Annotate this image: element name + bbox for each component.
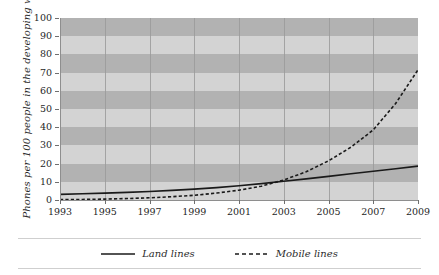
x-tick-label: 1993: [40, 206, 80, 217]
y-axis-line: [60, 18, 61, 201]
legend-label: Land lines: [142, 248, 195, 259]
y-tick-mark: [55, 164, 59, 165]
series-line-mobile-lines: [60, 70, 418, 200]
plot-area: [60, 18, 418, 200]
y-tick-mark: [55, 145, 59, 146]
y-tick-mark: [55, 109, 59, 110]
x-tick-label: 2007: [353, 206, 393, 217]
y-tick-mark: [55, 18, 59, 19]
y-tick-label: 40: [26, 122, 52, 132]
y-tick-label: 0: [26, 195, 52, 205]
y-tick-mark: [55, 36, 59, 37]
y-tick-label: 70: [26, 68, 52, 78]
y-tick-label: 10: [26, 177, 52, 187]
legend-label: Mobile lines: [276, 248, 338, 259]
x-tick-label: 2003: [264, 206, 304, 217]
y-tick-mark: [55, 73, 59, 74]
y-tick-mark: [55, 200, 59, 201]
y-tick-mark: [55, 91, 59, 92]
legend-separator-bottom: [18, 268, 421, 269]
x-tick-mark: [284, 200, 285, 204]
x-tick-mark: [239, 200, 240, 204]
y-tick-label: 100: [26, 13, 52, 23]
x-tick-label: 2005: [309, 206, 349, 217]
y-tick-label: 30: [26, 140, 52, 150]
legend-item[interactable]: Mobile lines: [235, 248, 338, 259]
x-tick-mark: [418, 200, 419, 204]
x-tick-mark: [329, 200, 330, 204]
y-tick-label: 60: [26, 86, 52, 96]
legend-swatch-dashed: [235, 250, 269, 258]
x-tick-mark: [60, 200, 61, 204]
x-tick-label: 1995: [85, 206, 125, 217]
x-tick-mark: [105, 200, 106, 204]
y-tick-mark: [55, 182, 59, 183]
y-tick-label: 20: [26, 159, 52, 169]
y-tick-mark: [55, 54, 59, 55]
x-tick-mark: [373, 200, 374, 204]
chart-legend: Land linesMobile lines: [0, 248, 439, 259]
series-layer: [60, 18, 418, 200]
legend-separator-top: [18, 238, 421, 239]
y-tick-label: 80: [26, 49, 52, 59]
x-tick-label: 2009: [398, 206, 438, 217]
x-tick-mark: [194, 200, 195, 204]
legend-item[interactable]: Land lines: [101, 248, 195, 259]
y-tick-label: 90: [26, 31, 52, 41]
y-tick-mark: [55, 127, 59, 128]
legend-swatch-solid: [101, 250, 135, 258]
chart-figure: Phones per 100 people in the developing …: [0, 0, 439, 275]
x-tick-label: 1997: [130, 206, 170, 217]
x-tick-mark: [150, 200, 151, 204]
y-tick-label: 50: [26, 104, 52, 114]
x-tick-label: 2001: [219, 206, 259, 217]
x-tick-label: 1999: [174, 206, 214, 217]
